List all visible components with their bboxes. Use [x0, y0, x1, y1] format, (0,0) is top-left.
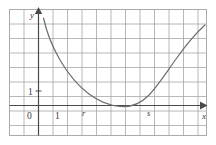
origin-label: 0: [27, 111, 32, 121]
y-axis-label: y: [29, 10, 34, 20]
graph-canvas: y x 0 1 1 r s: [0, 0, 216, 145]
x-unit-label: 1: [55, 111, 60, 121]
x-axis-label: x: [201, 111, 206, 121]
graph-figure: y x 0 1 1 r s: [0, 0, 216, 145]
y-unit-label: 1: [28, 87, 33, 97]
